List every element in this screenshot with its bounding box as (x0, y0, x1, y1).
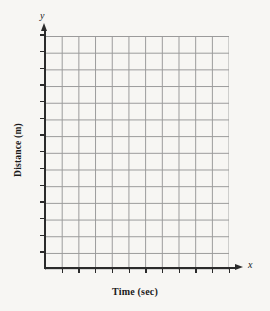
y-axis-tick (40, 151, 45, 152)
x-axis-arrow-icon (235, 264, 243, 270)
x-axis-tick (129, 268, 130, 273)
graph-figure: y x Distance (m) Time (sec) (0, 0, 270, 311)
x-axis-tick (212, 268, 213, 273)
y-axis-title: Distance (m) (13, 90, 23, 210)
y-axis-tick (40, 118, 45, 119)
x-axis-line (44, 267, 236, 269)
y-axis-tick (40, 201, 45, 202)
y-axis-tick (40, 101, 45, 102)
y-axis-tick (40, 168, 45, 169)
x-axis-tick (112, 268, 113, 273)
x-axis-tick (145, 268, 146, 273)
y-axis-tick (40, 185, 45, 186)
x-axis-tick (195, 268, 196, 273)
y-axis-variable-label: y (40, 10, 44, 21)
x-axis-tick (78, 268, 79, 273)
y-axis-tick (40, 251, 45, 252)
x-axis-tick (162, 268, 163, 273)
x-axis-title: Time (sec) (0, 286, 270, 297)
y-axis-tick (40, 51, 45, 52)
y-axis-tick (40, 218, 45, 219)
y-axis-arrow-icon (41, 23, 47, 31)
x-axis-tick (179, 268, 180, 273)
x-axis-tick (95, 268, 96, 273)
y-axis-tick (40, 235, 45, 236)
y-axis-tick (40, 34, 45, 35)
y-axis-tick (40, 68, 45, 69)
y-axis-tick (40, 84, 45, 85)
grid-lines (45, 36, 229, 270)
x-axis-variable-label: x (248, 259, 252, 270)
x-axis-tick (62, 268, 63, 273)
y-axis-line (44, 30, 46, 269)
x-axis-tick (229, 268, 230, 273)
plot-area (45, 36, 229, 270)
y-axis-tick (40, 134, 45, 135)
